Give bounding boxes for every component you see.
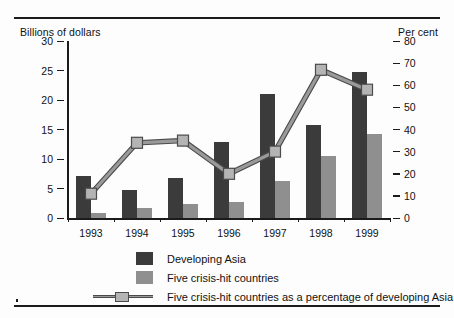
x-label-1996: 1996 <box>217 227 240 239</box>
chart-figure: Billions of dollars Per cent 05101520253… <box>0 0 454 318</box>
x-tick-4 <box>252 218 253 222</box>
left-tick-25: 25 <box>41 65 64 77</box>
x-tick-5 <box>298 218 299 222</box>
right-tick-0: 0 <box>393 212 410 224</box>
x-label-1998: 1998 <box>309 227 332 239</box>
percentage-marker-1998 <box>316 64 327 75</box>
legend-swatch-dark-icon <box>136 252 153 265</box>
right-tick-60: 60 <box>393 79 416 91</box>
percentage-marker-1995 <box>178 135 189 146</box>
left-tick-0: 0 <box>47 212 64 224</box>
legend-line-marker-icon <box>93 290 153 303</box>
legend-item-five-crisis-hit: Five crisis-hit countries <box>136 271 279 284</box>
percentage-marker-1999 <box>362 84 373 95</box>
frame-top-rule <box>14 17 440 19</box>
percentage-marker-1994 <box>132 137 143 148</box>
x-axis-line <box>67 218 391 220</box>
right-tick-80: 80 <box>393 35 416 47</box>
right-tick-30: 30 <box>393 146 416 158</box>
x-label-1993: 1993 <box>79 227 102 239</box>
x-tick-0 <box>68 218 69 222</box>
percentage-marker-1996 <box>224 168 235 179</box>
x-label-1997: 1997 <box>263 227 286 239</box>
percentage-marker-1993 <box>86 188 97 199</box>
left-tick-20: 20 <box>41 94 64 106</box>
percentage-marker-1997 <box>270 146 281 157</box>
left-tick-15: 15 <box>41 124 64 136</box>
left-tick-30: 30 <box>41 35 64 47</box>
right-tick-50: 50 <box>393 101 416 113</box>
left-tick-10: 10 <box>41 153 64 165</box>
right-tick-20: 20 <box>393 168 416 180</box>
left-tick-5: 5 <box>47 183 64 195</box>
plot-area: 051015202530 01020304050607080 <box>68 41 390 218</box>
legend-label-developing-asia: Developing Asia <box>167 253 246 265</box>
legend-item-developing-asia: Developing Asia <box>136 252 246 265</box>
x-tick-7 <box>390 218 391 222</box>
legend-swatch-light-icon <box>136 271 153 284</box>
footnote-tick-mark <box>16 299 18 302</box>
legend-item-percentage: Five crisis-hit countries as a percentag… <box>93 290 453 303</box>
legend-label-percentage: Five crisis-hit countries as a percentag… <box>167 291 453 303</box>
percentage-line-series <box>68 41 390 218</box>
x-tick-6 <box>344 218 345 222</box>
right-tick-40: 40 <box>393 124 416 136</box>
legend-label-five-crisis-hit: Five crisis-hit countries <box>167 272 279 284</box>
frame-bottom-rule <box>14 305 440 307</box>
x-tick-3 <box>206 218 207 222</box>
right-tick-70: 70 <box>393 57 416 69</box>
x-tick-1 <box>114 218 115 222</box>
x-label-1994: 1994 <box>125 227 148 239</box>
x-label-1999: 1999 <box>355 227 378 239</box>
x-tick-2 <box>160 218 161 222</box>
x-label-1995: 1995 <box>171 227 194 239</box>
right-tick-10: 10 <box>393 190 416 202</box>
